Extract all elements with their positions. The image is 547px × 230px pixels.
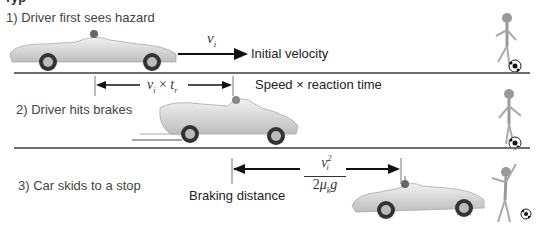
scene-3-label: 3) Car skids to a stop — [18, 178, 141, 193]
ground-line-2 — [14, 147, 530, 149]
braking-distance-formula: v2i 2μkg — [304, 151, 346, 198]
velocity-arrow-icon — [178, 47, 248, 61]
reaction-distance-formula: vi × tr — [147, 77, 177, 95]
cut-off-heading: Typ — [4, 0, 26, 5]
braking-car-icon — [132, 94, 302, 148]
car-icon — [6, 28, 184, 74]
reaction-distance-caption: Speed × reaction time — [255, 77, 382, 92]
braking-distance-caption: Braking distance — [189, 188, 285, 203]
scene-2-label: 2) Driver hits brakes — [16, 102, 132, 117]
soccer-ball-icon — [508, 59, 522, 73]
soccer-ball-icon-3 — [520, 208, 532, 220]
initial-velocity-caption: Initial velocity — [251, 46, 328, 61]
stopped-car-icon — [350, 176, 490, 222]
scene-1-label: 1) Driver first sees hazard — [6, 10, 155, 25]
